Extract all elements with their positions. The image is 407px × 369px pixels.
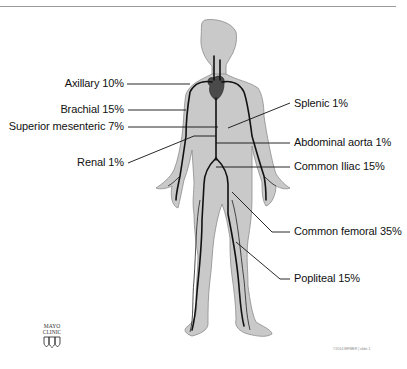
label-brachial: Brachial 15%	[60, 103, 124, 115]
logo-line2: CLINIC	[40, 329, 64, 335]
human-body-arterial-diagram	[0, 0, 407, 369]
label-superior-mesenteric: Superior mesenteric 7%	[9, 120, 124, 132]
mayo-clinic-logo: MAYO CLINIC	[40, 323, 64, 348]
label-renal: Renal 1%	[77, 156, 124, 168]
label-axillary: Axillary 10%	[65, 77, 124, 89]
body-silhouette	[156, 20, 290, 337]
copyright-footer: ©2014 MFMER | slide-1	[333, 347, 370, 351]
label-splenic: Splenic 1%	[294, 97, 348, 109]
label-common-femoral: Common femoral 35%	[294, 225, 402, 237]
shield-icon	[43, 336, 61, 348]
label-common-iliac: Common Iliac 15%	[294, 160, 385, 172]
label-popliteal: Popliteal 15%	[294, 272, 360, 284]
label-abdominal-aorta: Abdominal aorta 1%	[294, 136, 391, 148]
